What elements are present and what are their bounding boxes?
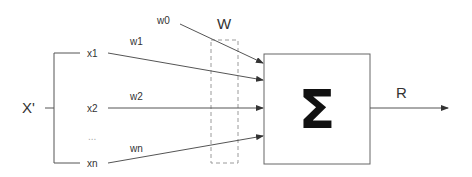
input-x2-label: x2 xyxy=(87,103,98,114)
summation-symbol: Σ xyxy=(299,78,336,141)
input-xn-label: xn xyxy=(87,158,98,169)
input-ellipsis: ... xyxy=(88,131,96,142)
output-label: R xyxy=(396,84,407,101)
input-x1-label: x1 xyxy=(87,48,98,59)
input-bracket xyxy=(54,53,80,163)
weight-wn-label: wn xyxy=(129,143,143,154)
perceptron-diagram: X' x1 x2 ... xn w0 w1 w2 wn W Σ R xyxy=(0,0,472,177)
input-vector-label: X' xyxy=(22,99,35,116)
weight-w2-label: w2 xyxy=(129,91,143,102)
bias-weight-label: w0 xyxy=(156,15,170,26)
weight-group-label: W xyxy=(217,15,232,32)
weight-w1-label: w1 xyxy=(129,36,143,47)
x1-connection-arrow xyxy=(108,53,263,80)
